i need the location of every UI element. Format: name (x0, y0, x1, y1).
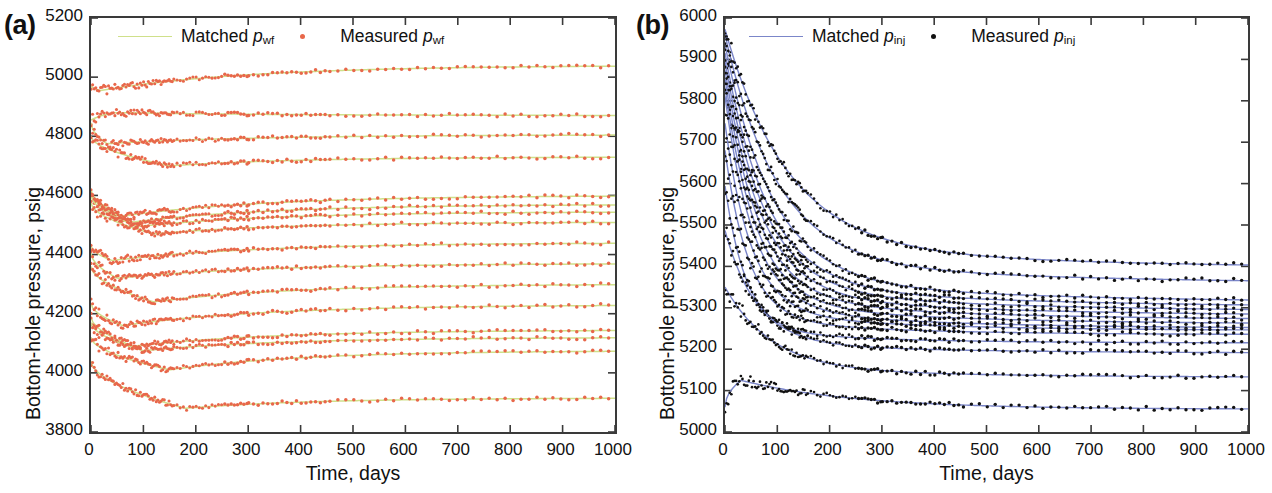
legend-entry-matched-pinj: Matched pinj (749, 26, 905, 47)
legend-entry-matched-pwf: Matched pwf (118, 26, 274, 47)
legend-measured-label: Measured (971, 26, 1049, 47)
panel-b: (b) Bottom-hole pressure, psig 500051005… (636, 0, 1272, 493)
legend-matched-symbol: p (884, 26, 894, 47)
legend-measured-subscript: inj (1064, 34, 1076, 46)
x-tick-label: 1000 (1212, 440, 1272, 460)
y-tick-label: 4200 (23, 302, 83, 322)
y-tick-label: 5200 (657, 337, 717, 357)
panel-a-x-axis-label: Time, days (89, 462, 617, 485)
y-tick-label: 4000 (23, 361, 83, 381)
legend-entry-measured-pwf: Measured pwf (274, 26, 444, 47)
matched-line-swatch-icon (749, 36, 803, 37)
legend-matched-subscript: inj (894, 34, 906, 46)
y-tick-label: 5700 (657, 130, 717, 150)
legend-matched-label: Matched (181, 26, 248, 47)
y-tick-label: 5900 (657, 47, 717, 67)
legend-measured-label: Measured (340, 26, 418, 47)
panel-a-data-canvas (91, 18, 615, 432)
y-tick-label: 5600 (657, 172, 717, 192)
y-tick-label: 5400 (657, 254, 717, 274)
y-tick-label: 6000 (657, 6, 717, 26)
y-tick-label: 5300 (657, 296, 717, 316)
legend-matched-label: Matched (812, 26, 879, 47)
legend-measured-subscript: wf (433, 34, 445, 46)
panel-a-legend: Matched pwf Measured pwf (118, 26, 444, 47)
y-tick-label: 5800 (657, 89, 717, 109)
measured-dot-swatch-icon (300, 34, 305, 39)
legend-matched-subscript: wf (263, 34, 275, 46)
legend-measured-symbol: p (423, 26, 433, 47)
legend-matched-symbol: p (253, 26, 263, 47)
panel-b-plot-area (723, 16, 1250, 434)
legend-entry-measured-pinj: Measured pinj (905, 26, 1075, 47)
panel-b-legend: Matched pinj Measured pinj (749, 26, 1075, 47)
panel-a: (a) Bottom-hole pressure, psig 380040004… (0, 0, 636, 493)
figure-root: (a) Bottom-hole pressure, psig 380040004… (0, 0, 1272, 493)
y-tick-label: 4800 (23, 124, 83, 144)
y-tick-label: 4600 (23, 183, 83, 203)
matched-line-swatch-icon (118, 36, 172, 37)
y-tick-label: 5000 (657, 420, 717, 440)
y-tick-label: 3800 (23, 420, 83, 440)
y-tick-label: 5000 (23, 65, 83, 85)
y-tick-label: 4400 (23, 243, 83, 263)
panel-a-plot-area (89, 16, 617, 434)
panel-b-x-axis-label: Time, days (723, 462, 1250, 485)
panel-b-data-canvas (725, 18, 1248, 432)
y-tick-label: 5100 (657, 379, 717, 399)
y-tick-label: 5500 (657, 213, 717, 233)
legend-measured-symbol: p (1054, 26, 1064, 47)
y-tick-label: 5200 (23, 6, 83, 26)
measured-dot-swatch-icon (931, 34, 936, 39)
